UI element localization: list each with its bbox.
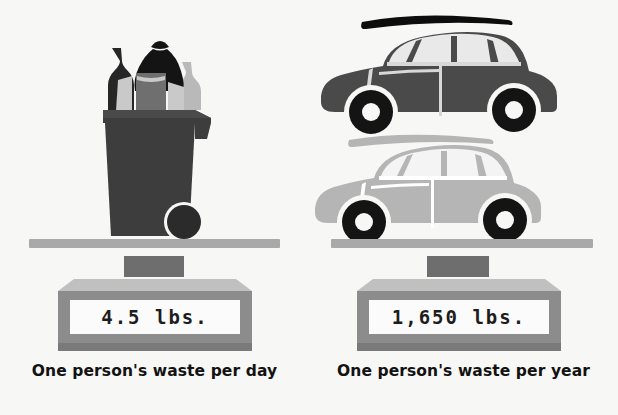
scale-platform-bar [331, 239, 593, 248]
scale-post [427, 256, 489, 277]
can-icon [136, 73, 166, 111]
scale-display-per-year: 1,650 lbs. [369, 300, 549, 334]
panel-per-year: 1,650 lbs. One person's waste per year [309, 0, 618, 415]
car-top-dark-icon [321, 15, 557, 139]
scale-readout-per-year: 1,650 lbs. [392, 306, 526, 328]
stacked-cars-illustration [309, 0, 618, 250]
infographic-canvas: 4.5 lbs. One person's waste per day [0, 0, 618, 415]
scale-readout-per-day: 4.5 lbs. [101, 306, 209, 328]
car-bottom-light-icon [315, 135, 541, 249]
bin-rim [103, 110, 211, 123]
caption-per-year: One person's waste per year [309, 362, 618, 380]
panel-per-day: 4.5 lbs. One person's waste per day [0, 0, 309, 415]
scale-base-strip [58, 343, 252, 351]
caption-per-day: One person's waste per day [0, 362, 309, 380]
scale-front-face: 1,650 lbs. [357, 291, 561, 343]
scale-platform-bar [29, 239, 280, 248]
scale-front-face: 4.5 lbs. [58, 291, 252, 343]
scale-per-year: 1,650 lbs. [309, 236, 618, 351]
bin-handle [195, 123, 211, 139]
scale-post [124, 256, 184, 277]
scale-base-strip [357, 343, 561, 351]
scale-top-bevel [58, 279, 252, 291]
scale-housing: 1,650 lbs. [357, 279, 561, 351]
wheelie-bin-illustration [0, 0, 309, 250]
scale-per-day: 4.5 lbs. [0, 236, 309, 351]
scale-display-per-day: 4.5 lbs. [70, 300, 240, 334]
scale-housing: 4.5 lbs. [58, 279, 252, 351]
scale-top-bevel [357, 279, 561, 291]
